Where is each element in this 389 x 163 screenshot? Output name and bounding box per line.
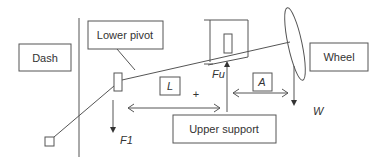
force-fu-label: Fu (212, 68, 225, 80)
lower-pivot-box: Lower pivot (88, 21, 163, 49)
lower-pivot-block (114, 73, 122, 91)
dimension-l: L (128, 77, 220, 112)
steering-wheel-ellipse (280, 6, 309, 81)
wheel-box: Wheel (310, 43, 368, 71)
steering-column-diagram: Dash Lower pivot Wheel Fu F1 W L (0, 0, 389, 163)
dimension-l-label: L (167, 80, 173, 92)
intermediate-shaft-line (54, 86, 114, 137)
upper-support-box: Upper support (173, 115, 276, 143)
dash-box: Dash (19, 44, 71, 71)
lower-joint-square (45, 137, 54, 146)
lower-pivot-label: Lower pivot (97, 29, 153, 41)
upper-pivot-block (224, 34, 232, 53)
dimension-a: A (233, 73, 288, 97)
dimension-a-label: A (257, 76, 265, 88)
centroid-plus-mark: + (193, 88, 199, 100)
force-f1-label: F1 (120, 134, 133, 146)
force-w-label: W (313, 105, 325, 117)
wheel-label: Wheel (323, 51, 354, 63)
lower-pivot-leader-line (117, 49, 135, 70)
dash-label: Dash (32, 52, 58, 64)
upper-support-label: Upper support (189, 123, 259, 135)
